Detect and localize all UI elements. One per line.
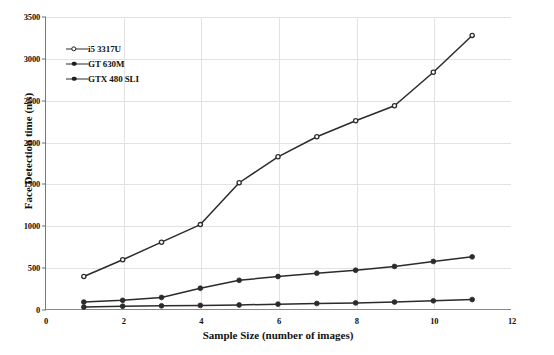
legend-item-gtx-480-sli[interactable]: GTX 480 SLI xyxy=(66,72,139,85)
legend-marker-icon xyxy=(66,74,88,84)
gridline-vertical xyxy=(279,17,280,309)
gridline-vertical xyxy=(357,17,358,309)
legend-marker-icon xyxy=(66,59,88,69)
legend-label: GTX 480 SLI xyxy=(88,74,139,84)
gridline-vertical xyxy=(201,17,202,309)
line-chart: 0500100015002000250030003500024681012 Fa… xyxy=(0,0,554,355)
gridline-vertical xyxy=(434,17,435,309)
x-tick-label: 2 xyxy=(122,309,126,326)
y-tick-label: 3500 xyxy=(24,12,46,22)
legend-label: GT 630M xyxy=(88,59,124,69)
x-axis-title: Sample Size (number of images) xyxy=(45,329,511,341)
x-tick-label: 4 xyxy=(199,309,203,326)
chart-legend: i5 3317U GT 630M GTX 480 SLI xyxy=(66,42,139,85)
x-tick-label: 10 xyxy=(430,309,438,326)
legend-label: i5 3317U xyxy=(88,44,121,54)
legend-marker-icon xyxy=(66,44,88,54)
legend-item-i5-3317u[interactable]: i5 3317U xyxy=(66,42,139,55)
x-tick-label: 0 xyxy=(44,309,48,326)
x-tick-label: 12 xyxy=(508,309,516,326)
y-axis-title: Face Detection time (ms) xyxy=(22,61,34,241)
x-tick-label: 8 xyxy=(355,309,359,326)
x-tick-label: 6 xyxy=(277,309,281,326)
y-tick-label: 500 xyxy=(28,263,46,273)
legend-item-gt-630m[interactable]: GT 630M xyxy=(66,57,139,70)
